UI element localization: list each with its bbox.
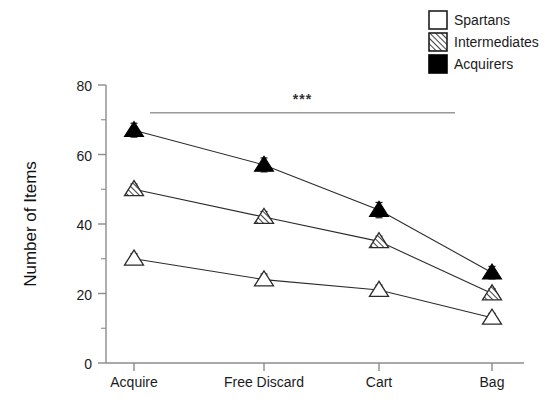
y-tick-label-60: 60 bbox=[76, 148, 92, 164]
x-tick-label-bag: Bag bbox=[480, 374, 505, 390]
line-chart-canvas: 80 60 40 20 0 Number of Items Acquire Fr… bbox=[0, 0, 560, 407]
y-tick-label-40: 40 bbox=[76, 217, 92, 233]
legend-label-acquirers: Acquirers bbox=[454, 56, 513, 72]
legend-swatch-intermediates bbox=[429, 33, 447, 51]
chart-figure: 80 60 40 20 0 Number of Items Acquire Fr… bbox=[0, 0, 560, 407]
x-tick-label-cart: Cart bbox=[366, 374, 393, 390]
x-tick-label-free-discard: Free Discard bbox=[224, 374, 304, 390]
legend-label-spartans: Spartans bbox=[454, 12, 510, 28]
y-axis-title: Number of Items bbox=[21, 161, 40, 287]
x-tick-label-acquire: Acquire bbox=[110, 374, 158, 390]
y-tick-label-0: 0 bbox=[84, 356, 92, 372]
y-tick-label-80: 80 bbox=[76, 78, 92, 94]
legend-swatch-spartans bbox=[429, 11, 447, 29]
significance-stars: *** bbox=[293, 91, 312, 107]
legend-swatch-acquirers bbox=[429, 55, 447, 73]
legend-label-intermediates: Intermediates bbox=[454, 34, 539, 50]
y-tick-label-20: 20 bbox=[76, 287, 92, 303]
